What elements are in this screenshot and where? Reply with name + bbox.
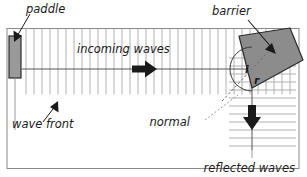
label-reflected-waves: reflected waves (204, 161, 296, 175)
label-angle-incidence: i (245, 63, 249, 76)
label-paddle: paddle (25, 2, 65, 16)
label-incoming-waves: incoming waves (77, 42, 170, 56)
figure-canvas: paddle incoming waves wave front barrier… (0, 0, 307, 177)
label-normal: normal (150, 115, 191, 129)
paddle[interactable] (9, 36, 21, 78)
ripple-tank-diagram: paddle incoming waves wave front barrier… (0, 0, 307, 177)
label-angle-reflection: r (254, 74, 260, 87)
label-barrier: barrier (212, 4, 252, 18)
label-wave-front: wave front (12, 117, 74, 131)
